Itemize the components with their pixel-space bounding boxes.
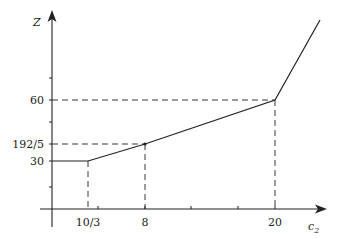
guide-lines — [52, 100, 275, 209]
piecewise-linear-chart: Z c2 60 192/5 30 10/3 8 20 — [0, 0, 345, 239]
y-axis-label: Z — [32, 16, 41, 29]
y-tick-label-60: 60 — [30, 94, 44, 107]
breakpoint-marker — [143, 142, 146, 145]
x-axis-label: c2 — [308, 220, 319, 235]
z-curve — [52, 20, 320, 161]
axes — [40, 10, 327, 227]
x-tick-label-10-3: 10/3 — [76, 216, 101, 229]
y-tick-label-192-5: 192/5 — [12, 138, 44, 151]
x-tick-label-8: 8 — [142, 216, 149, 229]
y-tick-label-30: 30 — [30, 155, 44, 168]
x-tick-label-20: 20 — [268, 216, 282, 229]
